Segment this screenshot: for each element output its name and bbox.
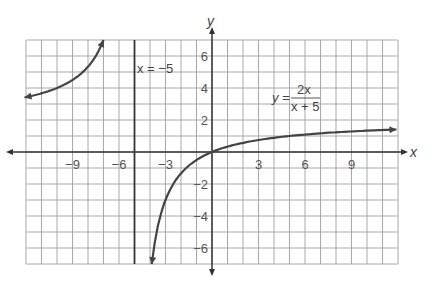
equation-lhs: y =	[271, 90, 290, 105]
equation-denominator: x + 5	[291, 99, 320, 114]
y-tick-label: 2	[201, 113, 208, 128]
y-tick-label: −2	[193, 177, 208, 192]
y-tick-label: 4	[201, 81, 208, 96]
y-tick-label: −4	[193, 209, 208, 224]
x-axis-right-arrow-icon	[401, 149, 408, 155]
x-tick-label: 9	[348, 157, 355, 172]
y-tick-label: −6	[193, 241, 208, 256]
axes	[6, 27, 408, 276]
equation-numerator: 2x	[297, 82, 311, 97]
x-axis-label: x	[409, 144, 418, 160]
equation-label: y = 2x x + 5	[271, 82, 320, 114]
left-branch	[25, 40, 104, 98]
x-tick-label: 6	[301, 157, 308, 172]
x-tick-label: −9	[65, 157, 80, 172]
x-tick-label: −3	[158, 157, 173, 172]
x-tick-label: −6	[112, 157, 127, 172]
graph: −9−6−3369642−2−4−6 x = −5 y = 2x x + 5 x…	[0, 0, 433, 283]
x-axis-left-arrow-icon	[6, 149, 13, 155]
y-axis-down-arrow-icon	[209, 269, 215, 276]
curve-arrow-icon	[389, 126, 396, 133]
y-axis-label: y	[206, 13, 215, 29]
x-tick-label: 3	[255, 157, 262, 172]
y-tick-label: 6	[201, 49, 208, 64]
asymptote-label: x = −5	[137, 61, 173, 76]
